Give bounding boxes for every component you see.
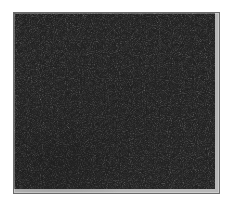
texture-shading-layer [13, 12, 220, 194]
texture-veil-layer [13, 12, 220, 194]
texture-base-layer [13, 12, 220, 194]
panel-caption [14, 13, 15, 14]
texture-clump-layer [13, 12, 215, 189]
texture-streak-layer [13, 12, 215, 189]
page-canvas [0, 0, 234, 206]
margin-text [0, 0, 1, 1]
texture-grain-layer [13, 12, 215, 189]
micrograph-panel[interactable] [13, 12, 220, 194]
